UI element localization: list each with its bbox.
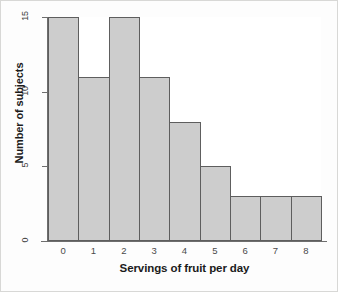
y-tick-mark-0 xyxy=(42,241,48,242)
plot-area xyxy=(48,17,321,241)
x-tick-label-3: 3 xyxy=(142,245,166,256)
x-tick-label-1: 1 xyxy=(82,245,106,256)
x-tick-label-6: 6 xyxy=(233,245,257,256)
y-tick-label-0: 0 xyxy=(20,229,30,251)
y-axis-title: Number of subjects xyxy=(13,33,25,193)
bar-category-7 xyxy=(260,196,291,241)
x-tick-label-7: 7 xyxy=(264,245,288,256)
x-tick-label-4: 4 xyxy=(173,245,197,256)
x-tick-label-0: 0 xyxy=(51,245,75,256)
y-tick-label-3: 15 xyxy=(20,5,30,27)
bar-category-5 xyxy=(200,166,231,241)
x-tick-label-2: 2 xyxy=(112,245,136,256)
bar-category-4 xyxy=(169,122,200,241)
bar-category-0 xyxy=(48,17,79,241)
x-tick-label-5: 5 xyxy=(203,245,227,256)
x-axis-title: Servings of fruit per day xyxy=(48,262,321,274)
x-axis-line xyxy=(41,241,327,242)
bar-category-1 xyxy=(78,77,109,241)
bar-category-2 xyxy=(109,17,140,241)
bar-category-8 xyxy=(291,196,322,241)
x-tick-label-8: 8 xyxy=(294,245,318,256)
bar-category-6 xyxy=(230,196,261,241)
bar-category-3 xyxy=(139,77,170,241)
histogram-figure: 0 5 10 15 0 1 2 3 4 5 6 7 8 Servings of … xyxy=(0,0,338,292)
